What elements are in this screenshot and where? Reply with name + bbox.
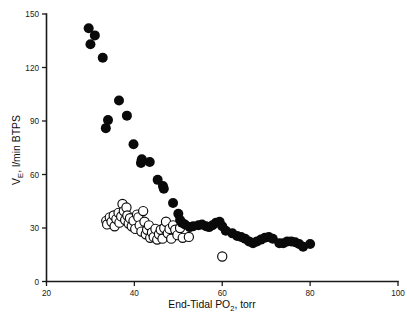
- data-point-filled: [90, 30, 100, 40]
- data-point-open: [139, 206, 148, 215]
- svg-text:End-Tidal PO2, torr: End-Tidal PO2, torr: [168, 299, 256, 313]
- x-tick-label: 100: [391, 289, 405, 298]
- data-point-filled: [145, 157, 155, 167]
- x-axis-title: End-Tidal PO2, torr: [168, 299, 256, 313]
- plot-canvas: 0306090120150 20406080100 VE, l/min BTPS…: [0, 0, 407, 319]
- y-tick-label: 150: [25, 10, 39, 19]
- data-point-filled: [114, 95, 124, 105]
- data-point-filled: [305, 239, 315, 249]
- scatter-plot-figure: 0306090120150 20406080100 VE, l/min BTPS…: [0, 0, 407, 319]
- axes-group: [47, 14, 399, 282]
- data-point-open: [218, 252, 227, 261]
- x-tick-label: 40: [130, 289, 140, 298]
- x-tick-label: 80: [306, 289, 316, 298]
- y-tick-label: 60: [30, 171, 40, 180]
- data-point-filled: [98, 53, 108, 63]
- y-axis-title: VE, l/min BTPS: [11, 115, 25, 185]
- data-point-filled: [159, 184, 169, 194]
- svg-text:VE, l/min BTPS: VE, l/min BTPS: [11, 115, 25, 185]
- x-tick-label: 20: [42, 289, 52, 298]
- data-point-filled: [122, 111, 132, 121]
- y-axis-ticks: 0306090120150: [25, 10, 46, 287]
- y-tick-label: 90: [30, 117, 40, 126]
- data-point-filled: [101, 123, 111, 133]
- data-point-filled: [85, 39, 95, 49]
- data-point-filled: [168, 198, 178, 208]
- y-tick-label: 0: [34, 278, 39, 287]
- data-point-open: [184, 232, 193, 241]
- y-tick-label: 120: [25, 64, 39, 73]
- data-point-filled: [129, 139, 139, 149]
- x-axis-ticks: 20406080100: [42, 282, 405, 298]
- y-tick-label: 30: [30, 224, 40, 233]
- x-tick-label: 60: [218, 289, 228, 298]
